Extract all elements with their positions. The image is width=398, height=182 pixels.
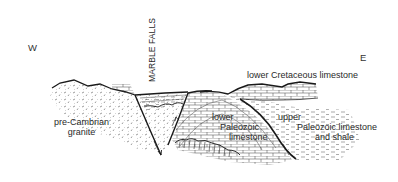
- cretaceous-label: lower Cretaceous limestone: [247, 70, 358, 80]
- east-label: E: [360, 53, 366, 63]
- west-label: W: [28, 43, 37, 53]
- cretaceous-limestone: [228, 82, 318, 100]
- granite-label: pre-Cambrian granite: [54, 117, 109, 137]
- marble-falls-label: MARBLE FALLS: [147, 18, 157, 82]
- upper-paleozoic-label: upper Paleozoic limestone and shale: [278, 112, 377, 142]
- cross-section-drawing: [0, 0, 398, 182]
- lower-paleozoic-label: lower Paleozoic limestone: [212, 112, 268, 142]
- cross-section-figure: W E MARBLE FALLS pre-Cambrian granite lo…: [0, 0, 398, 182]
